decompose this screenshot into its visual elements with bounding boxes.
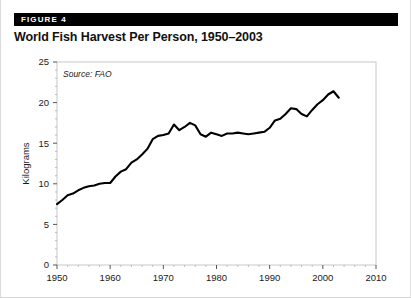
x-axis-ticks: 1950196019701980199020002010 [46, 265, 386, 283]
x-tick-label: 2000 [312, 272, 333, 283]
axis-minor-ticks [55, 70, 365, 267]
y-tick-label: 20 [38, 97, 49, 108]
x-tick-label: 1950 [46, 272, 67, 283]
x-tick-label: 1990 [259, 272, 280, 283]
y-tick-label: 5 [44, 219, 49, 230]
plot-frame [57, 62, 376, 265]
y-tick-label: 25 [38, 56, 49, 67]
x-tick-label: 2010 [365, 272, 386, 283]
x-tick-label: 1980 [206, 272, 227, 283]
y-tick-label: 10 [38, 178, 49, 189]
y-tick-label: 15 [38, 138, 49, 149]
line-chart-svg: 0510152025 1950196019701980199020002010 … [1, 0, 411, 298]
x-tick-label: 1960 [100, 272, 121, 283]
y-axis-ticks: 0510152025 [38, 56, 57, 270]
y-axis-title: Kilograms [20, 142, 31, 184]
chart-plot-area: 0510152025 1950196019701980199020002010 … [1, 0, 411, 298]
figure-page: FIGURE 4 World Fish Harvest Per Person, … [0, 0, 411, 298]
x-tick-label: 1970 [153, 272, 174, 283]
source-note: Source: FAO [63, 69, 112, 79]
fish-harvest-series-line [57, 91, 339, 204]
y-tick-label: 0 [44, 259, 49, 270]
